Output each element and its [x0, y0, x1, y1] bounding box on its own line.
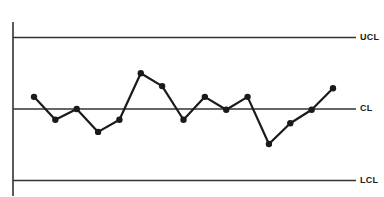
data-point: [52, 117, 58, 123]
data-point: [95, 129, 101, 135]
data-point: [202, 94, 208, 100]
data-point: [308, 107, 314, 113]
data-point: [138, 70, 144, 76]
data-point: [159, 83, 165, 89]
data-point: [74, 106, 80, 112]
control-chart: [0, 0, 384, 197]
data-point: [31, 94, 37, 100]
data-point: [330, 85, 336, 91]
data-point: [287, 120, 293, 126]
data-point: [116, 117, 122, 123]
cl-label: CL: [360, 103, 372, 113]
data-point: [266, 141, 272, 147]
data-point: [244, 94, 250, 100]
data-point: [223, 107, 229, 113]
data-point: [180, 117, 186, 123]
ucl-label: UCL: [360, 32, 379, 42]
lcl-label: LCL: [360, 175, 378, 185]
